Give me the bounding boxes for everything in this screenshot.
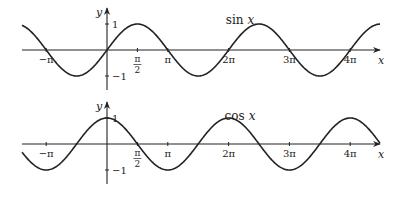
title-var: x: [249, 109, 256, 123]
x-tick-label-denominator: 2: [135, 159, 141, 169]
y-tick-label: −1: [112, 165, 127, 176]
chart-title: cosx: [225, 109, 256, 123]
sin-plot: xysinx−ππ2π2π3π4π1−1: [22, 6, 385, 90]
y-axis-label: y: [95, 6, 103, 19]
x-tick-label: −π: [39, 54, 54, 65]
cos-plot: xycosx−ππ2π2π3π4π1−1: [22, 100, 385, 184]
x-tick-label-denominator: 2: [135, 65, 141, 75]
x-tick-label: π: [165, 148, 172, 159]
x-tick-label: π: [165, 54, 172, 65]
figure: xysinx−ππ2π2π3π4π1−1 xycosx−ππ2π2π3π4π1−…: [0, 0, 401, 203]
x-axis-label: x: [378, 54, 385, 67]
x-tick-label-numerator: π: [134, 148, 140, 158]
title-func: cos: [225, 109, 245, 123]
title-func: sin: [226, 13, 244, 27]
x-tick-label-numerator: π: [134, 54, 140, 64]
x-tick-label: 3π: [283, 148, 296, 159]
x-tick-label: −π: [39, 148, 54, 159]
y-tick-label: 1: [112, 19, 118, 30]
x-axis-label: x: [378, 148, 385, 161]
y-axis-label: y: [95, 100, 103, 113]
x-tick-label: 2π: [222, 148, 235, 159]
y-tick-label: −1: [112, 71, 127, 82]
chart-title: sinx: [226, 13, 255, 27]
x-tick-label: 4π: [344, 148, 357, 159]
